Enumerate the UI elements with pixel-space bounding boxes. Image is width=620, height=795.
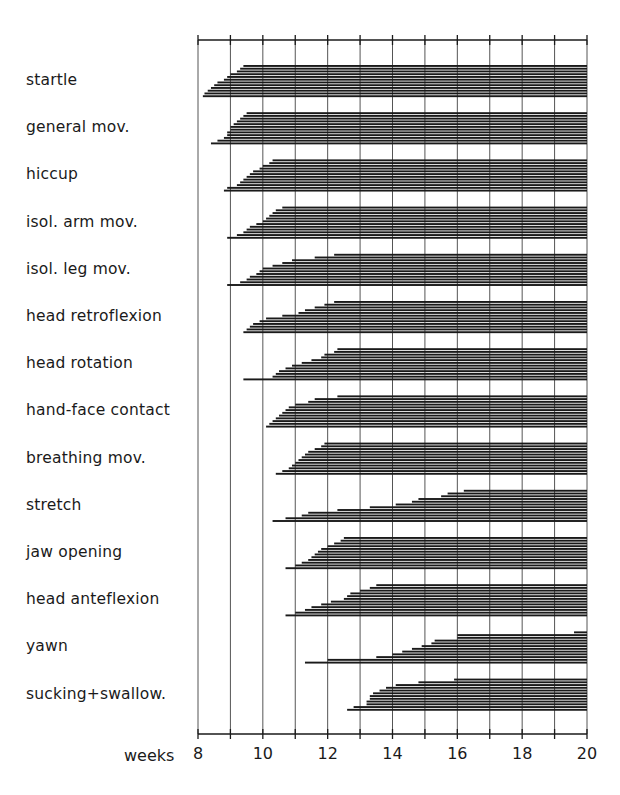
onset-bar	[217, 140, 587, 142]
onset-bar	[337, 395, 587, 397]
onset-bar	[286, 409, 587, 411]
x-tick-label: 16	[447, 744, 467, 763]
onset-chart: startlegeneral mov.hiccupisol. arm mov.i…	[0, 0, 620, 795]
onset-bar	[431, 642, 587, 644]
onset-bar	[305, 309, 587, 311]
category-label: sucking+swallow.	[26, 685, 166, 703]
onset-bar	[292, 259, 587, 261]
onset-bar	[260, 270, 587, 272]
onset-bar	[321, 603, 587, 605]
onset-bar	[247, 229, 587, 231]
onset-bar	[305, 454, 587, 456]
onset-bar	[247, 329, 587, 331]
category-label: isol. arm mov.	[26, 213, 138, 231]
onset-bar	[302, 562, 587, 564]
onset-bar	[321, 356, 587, 358]
onset-bar	[227, 131, 587, 133]
onset-bar	[234, 123, 587, 125]
onset-bar	[279, 370, 587, 372]
onset-bar	[289, 406, 587, 408]
onset-bar	[227, 134, 587, 136]
onset-bar	[273, 420, 587, 422]
onset-bar	[311, 556, 587, 558]
onset-bar	[266, 218, 587, 220]
onset-bar	[396, 504, 587, 506]
onset-bar	[269, 162, 587, 164]
onset-bar	[454, 679, 587, 681]
onset-bar	[412, 648, 587, 650]
category-label: stretch	[26, 496, 82, 514]
onset-bar	[347, 709, 587, 711]
bar-group-hiccup	[224, 159, 587, 191]
onset-bar	[260, 168, 587, 170]
onset-bar	[253, 323, 587, 325]
onset-bar	[360, 590, 587, 592]
x-tick-label: 12	[317, 744, 337, 763]
onset-bar	[402, 651, 587, 653]
category-label: head rotation	[26, 354, 133, 372]
onset-bar	[240, 118, 587, 120]
onset-bar	[367, 703, 587, 705]
bar-group-jaw-opening	[286, 537, 587, 569]
onset-bar	[418, 681, 587, 683]
bar-group-startle	[203, 65, 587, 97]
onset-bar	[217, 82, 587, 84]
onset-bar	[380, 690, 587, 692]
onset-bar	[334, 301, 587, 303]
onset-bar	[276, 473, 587, 475]
onset-bar	[227, 187, 587, 189]
onset-bar	[308, 512, 587, 514]
onset-bar	[422, 645, 587, 647]
category-label: jaw opening	[26, 543, 122, 561]
onset-bar	[276, 417, 587, 419]
onset-bar	[370, 695, 587, 697]
onset-bar	[321, 445, 587, 447]
onset-bar	[315, 257, 587, 259]
x-tick-label: 8	[193, 744, 203, 763]
onset-bar	[370, 698, 587, 700]
onset-bar	[282, 207, 587, 209]
onset-bar	[243, 231, 587, 233]
onset-bar	[464, 490, 587, 492]
onset-bar	[315, 398, 587, 400]
onset-bar	[273, 212, 587, 214]
onset-bar	[214, 84, 587, 86]
onset-bar	[204, 93, 587, 95]
onset-bar	[279, 415, 587, 417]
onset-bar	[354, 706, 587, 708]
onset-bar	[393, 653, 588, 655]
onset-bar	[230, 129, 587, 131]
onset-bar	[457, 637, 587, 639]
onset-bar	[341, 540, 587, 542]
onset-bar	[418, 498, 587, 500]
category-label: hiccup	[26, 165, 78, 183]
onset-bar	[574, 631, 587, 633]
onset-bar	[240, 181, 587, 183]
x-axis-label: weeks	[124, 746, 174, 765]
onset-bar	[224, 79, 587, 81]
onset-bar	[250, 326, 587, 328]
onset-bar	[276, 373, 587, 375]
x-tick-label: 10	[253, 744, 273, 763]
onset-bar	[227, 237, 587, 239]
onset-bar	[298, 459, 587, 461]
onset-bar	[227, 284, 587, 286]
onset-bar	[331, 601, 587, 603]
onset-bar	[441, 495, 587, 497]
onset-bar	[292, 365, 587, 367]
bar-group-isol-leg-mov	[227, 254, 587, 286]
onset-bar	[334, 351, 587, 353]
onset-bar	[344, 537, 587, 539]
onset-bar	[334, 254, 587, 256]
onset-bar	[295, 565, 587, 567]
onset-bar	[263, 165, 587, 167]
onset-bar	[282, 470, 587, 472]
onset-bar	[347, 595, 587, 597]
onset-bar	[308, 451, 587, 453]
onset-bar	[203, 95, 587, 97]
bar-group-hand-face-contact	[266, 395, 587, 427]
onset-bar	[295, 462, 587, 464]
onset-bar	[273, 159, 587, 161]
onset-bar	[256, 273, 587, 275]
onset-bar	[243, 179, 587, 181]
